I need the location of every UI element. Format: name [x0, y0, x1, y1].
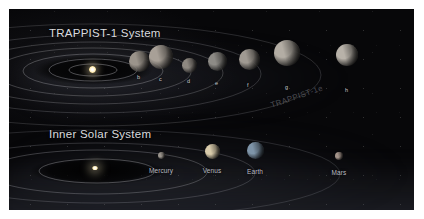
trappist-orbit-label-c: c — [159, 76, 162, 82]
trappist-orbit-label-d: d — [187, 78, 190, 84]
trappist-orbit-paths — [9, 9, 414, 210]
comparison-figure: bcdefgh TRAPPIST-1 System MercuryVenusEa… — [0, 0, 424, 219]
solar-planet-earth — [247, 142, 264, 159]
trappist-orbit-label-b: b — [137, 74, 140, 80]
sun-star — [92, 166, 98, 170]
trappist-planet-c — [149, 45, 173, 69]
space-panel: bcdefgh TRAPPIST-1 System MercuryVenusEa… — [9, 9, 414, 210]
solar-planet-label-venus: Venus — [203, 167, 222, 174]
trappist-planet-g — [274, 40, 300, 66]
solar-planet-label-earth: Earth — [247, 168, 263, 175]
trappist-orbit-label-h: h — [345, 87, 348, 93]
trappist-planet-e — [208, 52, 227, 71]
trappist-1-star — [89, 66, 96, 73]
solar-planet-label-mars: Mars — [332, 169, 347, 176]
solar-planet-mercury — [158, 152, 165, 159]
inner-solar-system-title: Inner Solar System — [49, 128, 151, 140]
trappist-1e-watermark: TRAPPIST-1e — [270, 83, 325, 109]
trappist-orbit-label-e: e — [215, 80, 218, 86]
trappist-planet-f — [239, 49, 260, 70]
trappist-orbit-label-f: f — [247, 82, 249, 88]
trappist-orbit-label-g: g — [285, 84, 288, 90]
solar-planet-venus — [205, 144, 220, 159]
solar-planet-label-mercury: Mercury — [149, 167, 173, 174]
trappist-planet-h — [336, 44, 358, 66]
trappist-planet-b — [129, 51, 150, 72]
starfield-background — [9, 9, 414, 210]
trappist-system-title: TRAPPIST-1 System — [49, 27, 161, 39]
trappist-planet-d — [182, 58, 197, 73]
solar-planet-mars — [335, 152, 343, 160]
